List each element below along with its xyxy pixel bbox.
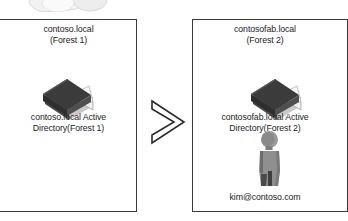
forest-box-right: contosofab.local (Forest 2) contosofab.l… [192,19,348,212]
cloud-icon [28,0,114,12]
forest-box-left: contoso.local (Forest 1) contoso.local A… [0,19,137,212]
left-forest-directory-label: contoso.local Active Directory(Forest 1) [0,112,136,134]
user-icon [249,130,289,188]
chevron-right-icon [146,98,190,146]
user-email-label: kim@contoso.com [193,192,347,203]
right-forest-header: contosofab.local (Forest 2) [193,24,347,46]
left-forest-header: contoso.local (Forest 1) [0,24,136,46]
